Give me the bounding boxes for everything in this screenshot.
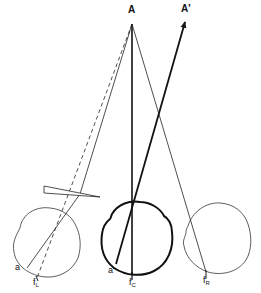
fovea-center-subscript: C [132, 282, 136, 288]
label-fovea-center: fC [129, 278, 136, 288]
line-a-to-fr [132, 24, 206, 272]
fovea-right-subscript: R [206, 280, 210, 286]
line-a-to-prism-solid [80, 24, 132, 194]
label-center-eye-a-prime: a' [108, 266, 115, 275]
label-point-a-prime: A' [181, 4, 191, 14]
left-eye-outline [13, 208, 80, 277]
fovea-left-subscript: L [36, 282, 39, 288]
label-left-eye-a: a [15, 263, 20, 272]
label-point-a: A [128, 5, 135, 15]
line-a-to-fl-dashed [37, 24, 132, 278]
prism-wedge [44, 186, 100, 197]
line-a-prime-to-a-prime-center [116, 22, 185, 264]
right-eye-outline [183, 203, 250, 274]
line-prism-to-a-left [27, 194, 80, 268]
label-fovea-left: fL [33, 278, 39, 288]
label-fovea-right: fR [203, 276, 210, 286]
diagram-canvas [0, 0, 261, 293]
cyclopean-eye-outline [102, 202, 173, 275]
